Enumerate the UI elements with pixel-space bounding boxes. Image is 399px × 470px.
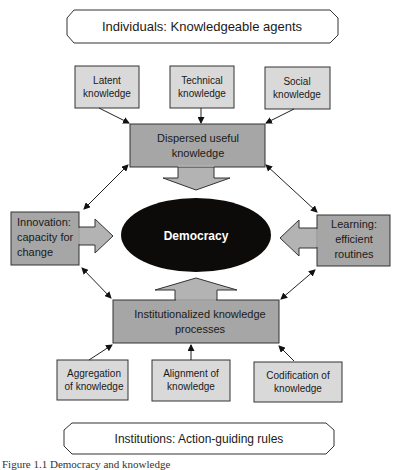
institutionalized-line1: Institutionalized knowledge bbox=[134, 308, 265, 320]
latent-line2: knowledge bbox=[83, 88, 131, 99]
dispersed-line2: knowledge bbox=[172, 147, 225, 159]
arrow-social-to-dispersed bbox=[266, 109, 294, 123]
aggregation-line2: of knowledge bbox=[65, 381, 124, 392]
institutionalized-line2: processes bbox=[175, 323, 226, 335]
top-banner-label: Individuals: Knowledgeable agents bbox=[102, 19, 303, 34]
learning-line1: Learning: bbox=[331, 218, 377, 230]
alignment-line1: Alignment of bbox=[163, 368, 219, 379]
innovation-line2: capacity for bbox=[17, 231, 74, 243]
codification-line2: knowledge bbox=[274, 383, 322, 394]
arrow-codification-to-institutionalized bbox=[279, 346, 294, 361]
codification-line1: Codification of bbox=[266, 370, 330, 381]
top-banner: Individuals: Knowledgeable agents bbox=[67, 10, 338, 43]
bottom-banner-label: Institutions: Action-guiding rules bbox=[115, 432, 284, 446]
latent-line1: Latent bbox=[93, 75, 121, 86]
innovation-line3: change bbox=[17, 246, 53, 258]
social-line1: Social bbox=[283, 76, 310, 87]
alignment-line2: knowledge bbox=[167, 381, 215, 392]
technical-line1: Technical bbox=[181, 75, 223, 86]
figure-caption: Figure 1.1 Democracy and knowledge bbox=[2, 458, 170, 470]
codification-box: Codification of knowledge bbox=[254, 362, 342, 402]
innovation-box: Innovation: capacity for change bbox=[11, 212, 113, 265]
learning-line3: routines bbox=[334, 248, 374, 260]
arrow-latent-to-dispersed bbox=[99, 108, 129, 123]
dispersed-line1: Dispersed useful bbox=[157, 132, 239, 144]
bottom-banner: Institutions: Action-guiding rules bbox=[64, 423, 334, 454]
arrow-aggregation-to-institutionalized bbox=[89, 345, 112, 360]
technical-line2: knowledge bbox=[178, 88, 226, 99]
learning-line2: efficient bbox=[335, 233, 373, 245]
learning-box: Learning: efficient routines bbox=[280, 215, 390, 266]
social-knowledge-box: Social knowledge bbox=[265, 67, 330, 109]
technical-knowledge-box: Technical knowledge bbox=[170, 66, 234, 108]
arrow-innovation-institutionalized bbox=[82, 268, 111, 298]
innovation-line1: Innovation: bbox=[17, 216, 71, 228]
social-line2: knowledge bbox=[273, 89, 321, 100]
arrow-dispersed-learning bbox=[266, 165, 317, 212]
latent-knowledge-box: Latent knowledge bbox=[75, 66, 139, 108]
democracy-ellipse: Democracy bbox=[121, 198, 271, 272]
arrow-learning-institutionalized bbox=[281, 270, 315, 299]
aggregation-box: Aggregation of knowledge bbox=[57, 360, 128, 400]
alignment-box: Alignment of knowledge bbox=[152, 360, 230, 401]
arrow-dispersed-innovation bbox=[84, 165, 128, 209]
democracy-label: Democracy bbox=[164, 229, 229, 243]
aggregation-line1: Aggregation bbox=[67, 368, 121, 379]
dispersed-knowledge-box: Dispersed useful knowledge bbox=[130, 124, 265, 190]
institutionalized-box: Institutionalized knowledge processes bbox=[113, 278, 279, 343]
